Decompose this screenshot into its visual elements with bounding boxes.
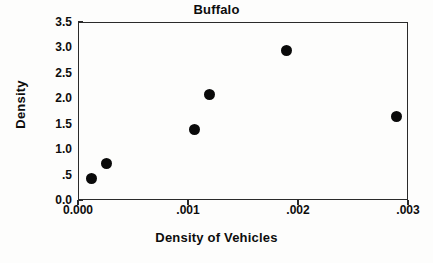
- y-axis-tick-label: 3.0: [28, 41, 72, 53]
- plot-frame: [78, 22, 408, 200]
- x-axis-tick-label: .002: [268, 204, 328, 216]
- y-axis-tick-label: 2.0: [28, 92, 72, 104]
- plot-area: [79, 23, 407, 199]
- data-point: [281, 45, 292, 56]
- y-axis-tick-label: 2.5: [28, 67, 72, 79]
- x-axis-tick-label: .003: [378, 204, 433, 216]
- data-point: [101, 158, 112, 169]
- data-point: [391, 111, 402, 122]
- data-point: [204, 89, 215, 100]
- scatter-chart-figure: Buffalo Density 0.0.51.01.52.02.53.03.5 …: [0, 0, 433, 263]
- y-axis-tick-label: 3.5: [28, 16, 72, 28]
- y-axis-tick-label: .5: [28, 169, 72, 181]
- y-axis-tick-label: 1.5: [28, 118, 72, 130]
- data-point: [86, 173, 97, 184]
- y-axis-tick-label-group: 0.0.51.01.52.02.53.03.5: [24, 0, 72, 263]
- y-axis-tick-label: 1.0: [28, 143, 72, 155]
- x-axis-title: Density of Vehicles: [0, 230, 433, 245]
- x-axis-tick-label: .001: [158, 204, 218, 216]
- x-axis-tick-label: 0.000: [48, 204, 108, 216]
- data-point: [189, 124, 200, 135]
